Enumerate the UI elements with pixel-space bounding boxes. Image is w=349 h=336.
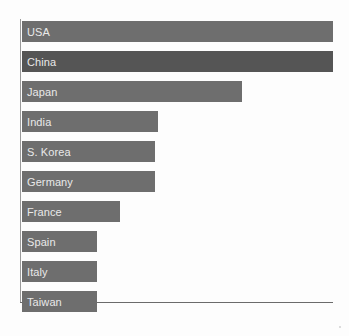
bar-s-korea[interactable]: S. Korea	[22, 141, 155, 162]
bar-france[interactable]: France	[22, 201, 120, 222]
bar-row[interactable]: Germany	[22, 171, 333, 192]
corner-marker	[339, 326, 341, 328]
bar-row[interactable]: China	[22, 51, 333, 72]
bar-chart: USAChinaJapanIndiaS. KoreaGermanyFranceS…	[0, 0, 349, 336]
bar-label: Taiwan	[27, 296, 62, 307]
bar-row[interactable]: Spain	[22, 231, 333, 252]
bar-spain[interactable]: Spain	[22, 231, 97, 252]
bar-japan[interactable]: Japan	[22, 81, 242, 102]
bar-label: India	[27, 116, 51, 127]
bar-label: USA	[27, 26, 50, 37]
bar-label: Germany	[27, 176, 73, 187]
bar-row[interactable]: S. Korea	[22, 141, 333, 162]
bar-row[interactable]: India	[22, 111, 333, 132]
bar-italy[interactable]: Italy	[22, 261, 97, 282]
bar-india[interactable]: India	[22, 111, 158, 132]
bar-usa[interactable]: USA	[22, 21, 333, 42]
bar-taiwan[interactable]: Taiwan	[22, 291, 97, 312]
bar-china[interactable]: China	[22, 51, 333, 72]
bar-series: USAChinaJapanIndiaS. KoreaGermanyFranceS…	[22, 21, 333, 302]
bar-row[interactable]: Japan	[22, 81, 333, 102]
bar-label: France	[27, 206, 62, 217]
bar-row[interactable]: France	[22, 201, 333, 222]
bar-label: Japan	[27, 86, 57, 97]
bar-row[interactable]: Taiwan	[22, 291, 333, 312]
bar-germany[interactable]: Germany	[22, 171, 155, 192]
bar-row[interactable]: Italy	[22, 261, 333, 282]
bar-label: S. Korea	[27, 146, 71, 157]
bar-label: Italy	[27, 266, 48, 277]
y-axis-line	[20, 19, 21, 303]
bar-label: Spain	[27, 236, 56, 247]
bar-row[interactable]: USA	[22, 21, 333, 42]
bar-label: China	[27, 56, 56, 67]
